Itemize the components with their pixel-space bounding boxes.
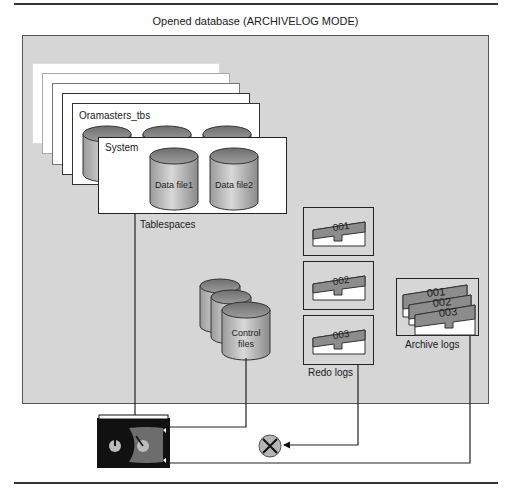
connector-lines (0, 0, 511, 492)
bottom-rule (14, 482, 498, 484)
tape-cartridge-icon (96, 414, 174, 470)
x-circle-icon (258, 434, 282, 458)
